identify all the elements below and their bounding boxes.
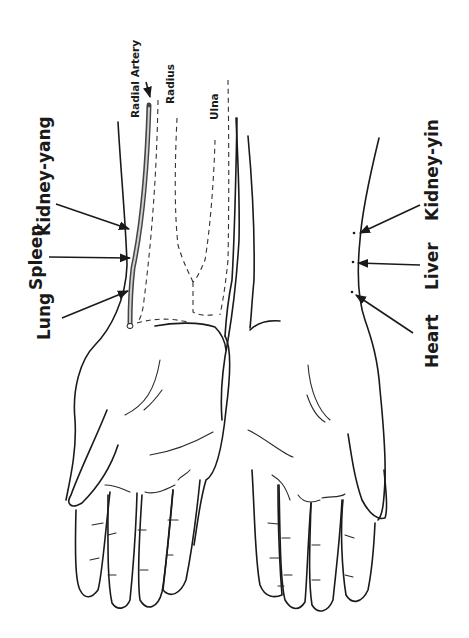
arrow-radial-artery bbox=[146, 82, 150, 97]
right-forearm-inner-edge bbox=[248, 136, 254, 328]
label-kidney-yang: Kidney-yang bbox=[34, 116, 54, 236]
ulna-bone-outer bbox=[220, 80, 229, 315]
arrow-kidney-yang bbox=[56, 204, 129, 229]
right-wrist-crease bbox=[250, 321, 280, 330]
left-knuckle-line bbox=[105, 470, 190, 493]
label-heart: Heart bbox=[422, 314, 442, 368]
pulse-diagram: Lung Spleen Kidney-yang Radial Artery Ra… bbox=[0, 0, 469, 638]
right-finger-index bbox=[342, 500, 375, 601]
left-finger-index bbox=[75, 492, 110, 597]
arrow-spleen bbox=[49, 257, 130, 258]
right-finger-little bbox=[252, 470, 282, 597]
right-forearm-radial-edge bbox=[358, 138, 385, 520]
label-lung: Lung bbox=[34, 293, 54, 340]
ulna-bone-3 bbox=[193, 282, 216, 315]
arrow-heart bbox=[356, 295, 413, 333]
right-knuckle-line bbox=[272, 475, 345, 502]
label-kidney-yin: Kidney-yin bbox=[422, 119, 442, 221]
right-palm-crease-3 bbox=[248, 430, 293, 457]
arrow-liver bbox=[358, 263, 420, 265]
label-radial-artery: Radial Artery bbox=[129, 40, 141, 118]
right-finger-middle bbox=[310, 500, 342, 611]
right-arm bbox=[221, 118, 420, 611]
left-thumb bbox=[69, 410, 118, 506]
label-ulna: Ulna bbox=[208, 93, 220, 120]
arrow-lung bbox=[62, 291, 128, 318]
dot-kidney-yin bbox=[353, 232, 356, 235]
right-finger-ring bbox=[279, 485, 311, 609]
right-thumb bbox=[348, 434, 387, 518]
ulna-bone-2 bbox=[193, 140, 215, 282]
left-palm-crease-2 bbox=[150, 432, 213, 455]
left-finger-middle bbox=[108, 493, 137, 608]
left-thenar-crease bbox=[125, 360, 160, 415]
left-wrist-crease bbox=[155, 323, 226, 350]
dot-heart bbox=[351, 291, 354, 294]
label-radius: Radius bbox=[164, 64, 176, 104]
ulna-bone bbox=[175, 118, 193, 282]
dot-liver bbox=[352, 261, 355, 264]
left-forearm-ulnar-edge bbox=[225, 118, 237, 336]
right-palm-crease-1 bbox=[308, 365, 330, 420]
left-forearm-radial-edge bbox=[66, 122, 127, 500]
left-arm bbox=[49, 80, 237, 608]
label-liver: Liver bbox=[422, 242, 442, 290]
arrow-kidney-yin bbox=[360, 205, 420, 233]
artery-end bbox=[127, 324, 133, 329]
left-palm-crease-1 bbox=[144, 390, 162, 410]
radial-artery bbox=[130, 105, 149, 326]
